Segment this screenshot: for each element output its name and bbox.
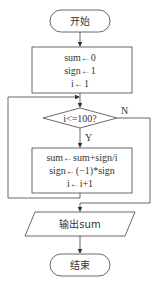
init-line-1: sum←0	[64, 52, 96, 63]
condition-label: i<=100?	[63, 113, 97, 124]
body-line-2: sign←(−1)*sign	[49, 165, 115, 177]
init-line-3: i←1	[71, 78, 89, 89]
flowchart-canvas: 开始 sum←0 sign←1 i←1 i<=100? Y N sum←sum+…	[0, 0, 161, 288]
end-label: 结束	[70, 259, 90, 271]
yes-label: Y	[85, 132, 92, 143]
body-line-1: sum←sum+sign/i	[46, 152, 117, 163]
no-label: N	[121, 105, 128, 116]
init-line-2: sign←1	[64, 65, 96, 76]
output-label: 输出sum	[59, 218, 100, 230]
start-label: 开始	[70, 15, 90, 27]
body-line-3: i←i+1	[67, 178, 93, 189]
flowchart-diagram: 开始 sum←0 sign←1 i←1 i<=100? Y N sum←sum+…	[0, 0, 161, 288]
